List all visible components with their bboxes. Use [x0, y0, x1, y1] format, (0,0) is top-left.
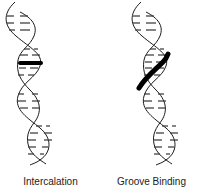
- base-pairs: [7, 16, 52, 154]
- intercalation-panel: Intercalation: [0, 0, 101, 195]
- groove-binding-panel: Groove Binding: [101, 0, 202, 195]
- groove-binding-label: Groove Binding: [101, 176, 202, 187]
- dna-helix-intercalation: [0, 0, 101, 175]
- dna-helix-groove-binding: [101, 0, 202, 175]
- helix-strands: [6, 2, 49, 165]
- intercalation-label: Intercalation: [0, 176, 101, 187]
- helix-strands: [132, 2, 175, 165]
